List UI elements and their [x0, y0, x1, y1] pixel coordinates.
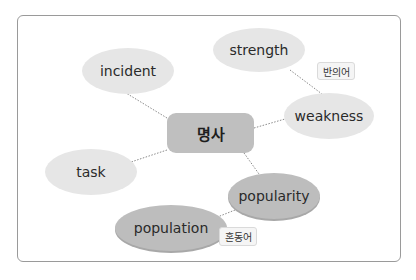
- node-label: incident: [100, 63, 156, 79]
- relation-tag-antonym: 반의어: [317, 62, 355, 80]
- relation-tag-confusable: 혼동어: [219, 227, 257, 246]
- node-label: population: [134, 220, 209, 236]
- node-label: strength: [230, 42, 289, 58]
- node-strength[interactable]: strength: [213, 28, 305, 72]
- node-label: weakness: [295, 108, 364, 124]
- center-label: 명사: [197, 123, 225, 144]
- node-incident[interactable]: incident: [82, 48, 174, 94]
- edge-center-task: [128, 150, 167, 163]
- edge-center-popularity: [244, 153, 259, 174]
- node-label: task: [76, 164, 105, 180]
- node-weakness[interactable]: weakness: [284, 93, 374, 139]
- node-label: popularity: [238, 188, 309, 204]
- node-task[interactable]: task: [45, 149, 137, 195]
- node-population[interactable]: population: [115, 205, 227, 251]
- edge-center-incident: [126, 93, 167, 118]
- node-center-noun[interactable]: 명사: [167, 113, 254, 153]
- node-popularity[interactable]: popularity: [228, 173, 320, 219]
- edge-center-weakness: [254, 119, 285, 128]
